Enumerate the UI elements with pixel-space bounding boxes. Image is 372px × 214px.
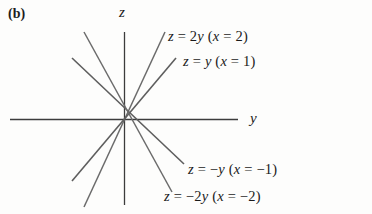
z-axis-label: z bbox=[119, 4, 125, 21]
equation-label-z-negative-y: z = −y (x = −1) bbox=[188, 161, 277, 178]
equation-label-z-2y: z = 2y (x = 2) bbox=[168, 28, 248, 45]
equation-label-z-negative-2y: z = −2y (x = −2) bbox=[164, 188, 261, 205]
figure-panel-b: (b) z y z = 2y (x = 2) z = y (x = 1) z =… bbox=[0, 0, 372, 214]
line-z-equals-negative-2y bbox=[84, 32, 172, 192]
y-axis-label: y bbox=[250, 110, 257, 127]
equation-label-z-y: z = y (x = 1) bbox=[183, 53, 256, 70]
panel-label: (b) bbox=[8, 6, 25, 22]
